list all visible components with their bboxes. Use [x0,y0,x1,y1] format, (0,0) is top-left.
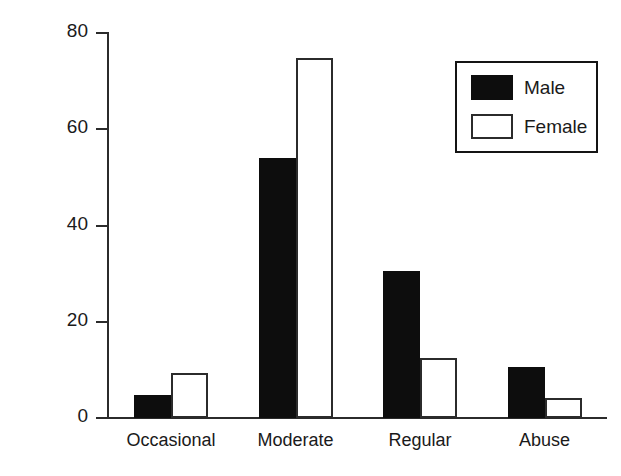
y-axis-tick-label-wrap: 80 [0,20,88,40]
x-axis-label-abuse: Abuse [475,430,615,451]
y-axis-tick-label: 60 [0,116,88,138]
x-axis-label-moderate: Moderate [226,430,366,451]
legend-item-female: Female [471,114,587,139]
bar-chart: Percentages 020406080 OccasionalModerate… [0,0,621,476]
bar-occasional-male [134,395,171,418]
legend-swatch-male-icon [471,75,513,100]
legend-item-male: Male [471,75,565,100]
legend-swatch-female-icon [471,114,513,139]
bar-abuse-male [508,367,545,418]
legend: Male Female [455,61,598,153]
y-axis-tick [96,321,108,323]
legend-label-male: Male [524,78,565,97]
y-axis-tick [96,225,108,227]
y-axis-tick-label: 40 [0,213,88,235]
legend-label-female: Female [524,117,587,136]
bar-occasional-female [171,373,208,418]
y-axis-tick-label-wrap: 40 [0,213,88,233]
bar-moderate-male [259,158,296,418]
y-axis-tick-label: 20 [0,309,88,331]
y-axis-tick [96,128,108,130]
bar-regular-male [383,271,420,418]
y-axis-tick-label-wrap: 60 [0,116,88,136]
y-axis-tick [96,32,108,34]
y-axis-tick-label-wrap: 20 [0,309,88,329]
x-axis-label-occasional: Occasional [101,430,241,451]
bar-abuse-female [545,398,582,418]
y-axis-tick-label: 80 [0,20,88,42]
y-axis-tick-label: 0 [0,405,88,427]
bar-moderate-female [296,58,333,418]
x-axis-label-regular: Regular [350,430,490,451]
y-axis-tick-label-wrap: 0 [0,405,88,425]
bar-regular-female [420,358,457,418]
